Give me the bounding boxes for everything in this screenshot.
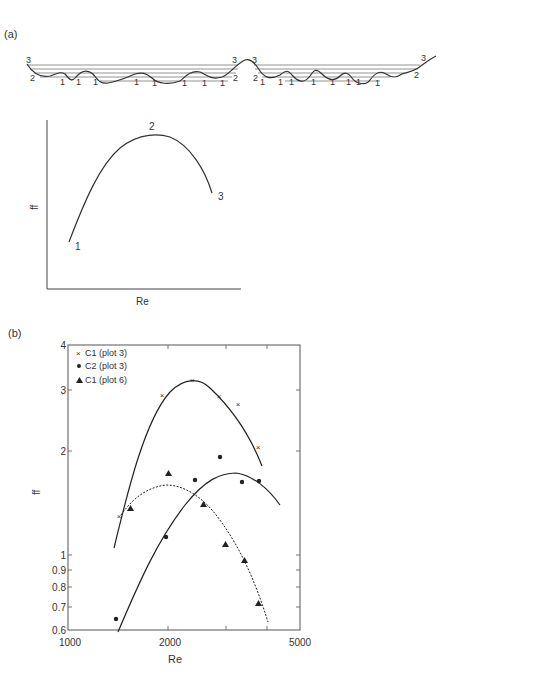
- scatter-chart: 0.6 0.7 0.8 0.9 1 2 3 4 1000 2000 5000 R…: [0, 0, 544, 687]
- legend-triangle-icon: [76, 377, 83, 383]
- fit-curve-c2-plot3: [118, 473, 280, 632]
- svg-text:0.9: 0.9: [52, 565, 66, 576]
- x-tick-labels: 1000 2000 5000: [59, 637, 312, 648]
- y-tick-labels: 0.6 0.7 0.8 0.9 1 2 3 4: [52, 340, 66, 636]
- svg-text:×: ×: [217, 392, 222, 401]
- x-ticks: [168, 345, 267, 630]
- legend-label-c1-plot3: C1 (plot 3): [85, 348, 127, 358]
- svg-text:×: ×: [117, 512, 122, 521]
- svg-text:2: 2: [60, 446, 66, 457]
- legend-label-c2-plot3: C2 (plot 3): [85, 361, 127, 371]
- svg-text:1: 1: [60, 550, 66, 561]
- svg-text:0.8: 0.8: [52, 582, 66, 593]
- y-ticks: [68, 390, 300, 607]
- svg-text:2000: 2000: [159, 637, 182, 648]
- svg-text:×: ×: [256, 443, 261, 452]
- y-axis-label: ff: [31, 489, 42, 495]
- legend-circle-icon: [77, 364, 81, 368]
- svg-text:5000: 5000: [289, 637, 312, 648]
- series-c1-plot3-markers: × × × × × ×: [117, 376, 261, 521]
- legend-cross-icon: ×: [76, 349, 81, 358]
- svg-text:0.6: 0.6: [52, 625, 66, 636]
- legend: × C1 (plot 3) C2 (plot 3) C1 (plot 6): [76, 348, 127, 385]
- x-axis-label: Re: [168, 653, 182, 665]
- svg-text:4: 4: [60, 340, 66, 351]
- svg-text:×: ×: [236, 400, 241, 409]
- fit-curve-c1-plot6: [121, 485, 268, 622]
- svg-text:3: 3: [60, 385, 66, 396]
- svg-text:0.7: 0.7: [52, 602, 66, 613]
- svg-text:×: ×: [190, 376, 195, 385]
- legend-label-c1-plot6: C1 (plot 6): [85, 375, 127, 385]
- svg-text:×: ×: [160, 391, 165, 400]
- series-c2-plot3-markers: [114, 455, 261, 621]
- svg-text:1000: 1000: [59, 637, 82, 648]
